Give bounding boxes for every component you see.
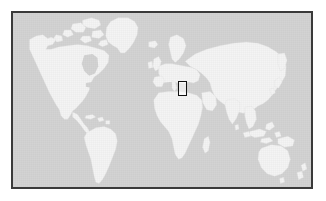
figure-title: World locator map [0, 21, 1, 22]
sri-lanka-shape [235, 124, 239, 130]
map-caption [0, 0, 1, 1]
locator-map-figure: World locator map [0, 0, 326, 201]
world-map-svg [13, 13, 311, 187]
highlight-region-rectangle[interactable] [178, 81, 187, 96]
map-frame [11, 11, 313, 189]
tasmania-shape [280, 177, 285, 183]
